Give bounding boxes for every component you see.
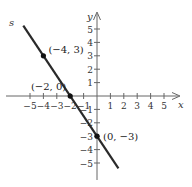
x-axis-label: x [178, 99, 184, 110]
y-tick-label: −4 [80, 145, 94, 155]
y-tick-label: 1 [87, 78, 93, 88]
y-axis-label: y [86, 11, 93, 22]
y-tick-label: 2 [87, 65, 93, 75]
data-point [68, 93, 73, 98]
point-label: (−4, 3) [48, 44, 83, 55]
data-point [41, 53, 46, 58]
x-tick-label: −3 [50, 101, 64, 111]
y-tick-label: 5 [87, 25, 93, 35]
data-point [94, 134, 99, 139]
y-tick-label: −3 [80, 132, 94, 142]
x-tick-label: 3 [134, 101, 140, 111]
x-tick-label: 5 [161, 101, 167, 111]
point-label: (0, −3) [103, 131, 138, 142]
y-tick-label: −5 [80, 159, 94, 169]
x-tick-label: 1 [108, 101, 114, 111]
line-label-s: s [9, 17, 14, 28]
x-tick-label: −5 [23, 101, 37, 111]
x-tick-label: −4 [37, 101, 51, 111]
x-tick-label: 2 [121, 101, 127, 111]
y-tick-label: 3 [87, 51, 93, 61]
y-tick-label: 4 [87, 38, 93, 48]
x-tick-label: 4 [148, 101, 154, 111]
coordinate-plane: −5−4−3−2−112345 −5−4−3−2−112345 x y s (−… [0, 0, 192, 187]
point-label: (−2, 0) [31, 81, 66, 92]
